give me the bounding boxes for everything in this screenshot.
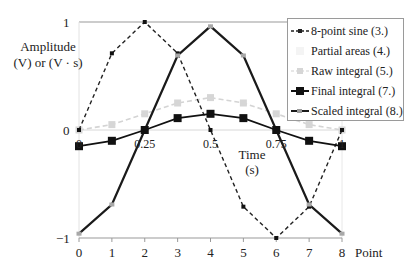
legend: 8-point sine (3.) Partial areas (4.) Raw… <box>287 18 404 121</box>
partial-area-swatch-icon <box>290 45 310 57</box>
y-axis-label-line2: (V) or (V · s) <box>13 55 82 70</box>
legend-label: Partial areas (4.) <box>311 44 390 59</box>
x-tick-label: 2 <box>142 245 149 260</box>
time-tick-label: 1 <box>339 137 345 151</box>
dashed-line-marker-icon <box>290 25 310 37</box>
x-tick-label: 7 <box>306 245 313 260</box>
legend-label: Raw integral (5.) <box>311 64 393 79</box>
time-axis-label-line2: (s) <box>245 162 259 177</box>
solid-line-square-marker-icon <box>290 85 310 97</box>
x-tick-label: 8 <box>339 245 346 260</box>
y-tick-label-neg1: −1 <box>56 231 70 246</box>
x-tick-label: 6 <box>273 245 280 260</box>
gray-dashed-line-marker-icon <box>290 65 310 77</box>
x-tick-labels: 012345678 <box>76 245 346 260</box>
time-tick-label: 0.5 <box>203 137 218 151</box>
y-tick-label-1: 1 <box>63 15 70 30</box>
legend-label: Final integral (7.) <box>311 84 395 99</box>
y-axis-label-line1: Amplitude <box>20 39 76 54</box>
legend-item-sine: 8-point sine (3.) <box>290 21 403 41</box>
x-tick-label: 3 <box>174 245 181 260</box>
time-tick-label: 0.75 <box>266 137 287 151</box>
solid-line-gray-marker-icon <box>290 105 310 117</box>
time-axis-label-line1: Time <box>239 147 266 162</box>
legend-label: Scaled integral (8.) <box>311 104 403 119</box>
x-axis-label: Point <box>355 245 383 260</box>
x-tick-label: 4 <box>207 245 214 260</box>
legend-item-raw-integral: Raw integral (5.) <box>290 61 403 81</box>
time-tick-label: 0 <box>76 137 82 151</box>
x-tick-label: 5 <box>240 245 247 260</box>
x-ticks <box>79 238 342 242</box>
y-tick-label-0: 0 <box>63 123 70 138</box>
legend-label: 8-point sine (3.) <box>311 24 388 39</box>
legend-item-final-integral: Final integral (7.) <box>290 81 403 101</box>
legend-item-partial-areas: Partial areas (4.) <box>290 41 403 61</box>
legend-item-scaled-integral: Scaled integral (8.) <box>290 101 403 121</box>
time-tick-label: 0.25 <box>134 137 155 151</box>
x-tick-label: 1 <box>109 245 116 260</box>
x-tick-label: 0 <box>76 245 83 260</box>
